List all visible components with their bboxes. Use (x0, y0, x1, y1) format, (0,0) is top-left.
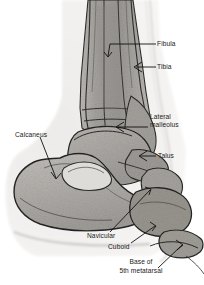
label-fibula: Fibula (157, 40, 176, 48)
anatomy-figure: Fibula Tibia Lateral malleolus Talus Cal… (0, 0, 204, 285)
label-navicular: Navicular (87, 232, 115, 240)
label-cuboid: Cuboid (108, 243, 130, 251)
label-calcaneus: Calcaneus (15, 131, 47, 139)
label-base-5th-metatarsal-line2: 5th metatarsal (104, 267, 178, 275)
label-base-5th-metatarsal-line1: Base of (113, 258, 169, 266)
label-lateral-malleolus-line2: malleolus (150, 121, 179, 129)
label-talus: Talus (158, 152, 174, 160)
label-tibia: Tibia (157, 63, 172, 71)
label-lateral-malleolus-line1: Lateral (150, 113, 171, 121)
